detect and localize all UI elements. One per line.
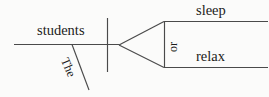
sentence-diagram: students The or sleep relax — [0, 0, 269, 97]
fork-lower-stroke — [119, 45, 164, 68]
fork-upper-stroke — [119, 22, 164, 46]
predicate-label-lower: relax — [196, 49, 225, 64]
predicate-label-upper: sleep — [196, 3, 226, 18]
diagram-strokes — [0, 0, 269, 97]
conjunction-label: or — [167, 42, 179, 52]
subject-label: students — [37, 23, 85, 38]
